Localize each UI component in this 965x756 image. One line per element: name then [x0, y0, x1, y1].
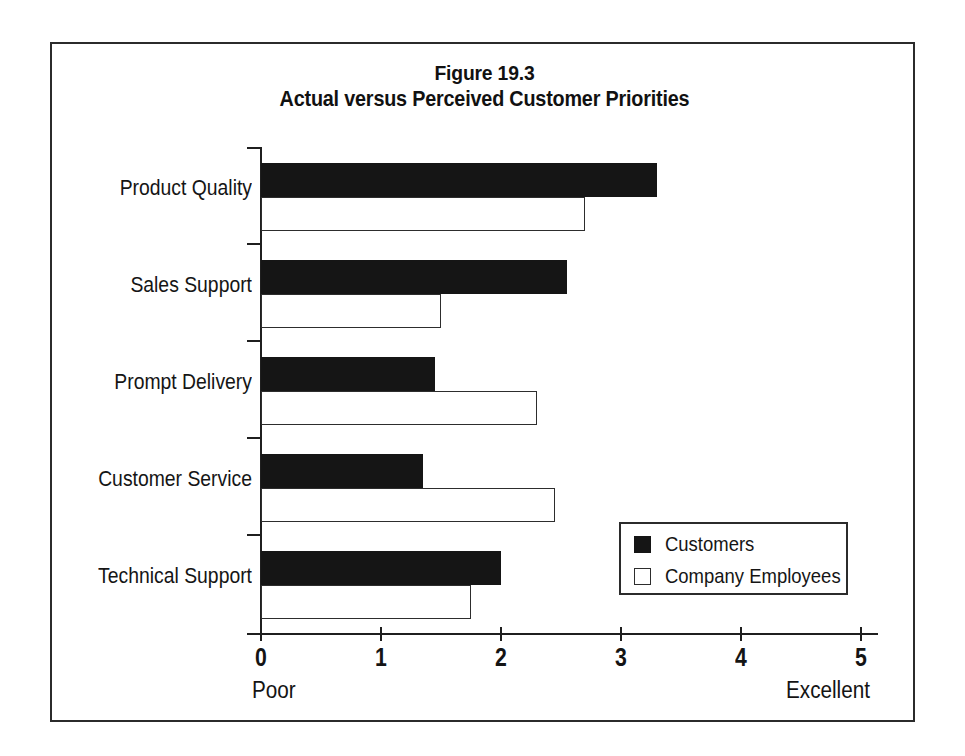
- value-axis-label-5: 5: [844, 643, 878, 671]
- bar-customers-product-quality: [261, 163, 657, 197]
- category-label-prompt-delivery: Prompt Delivery: [50, 369, 252, 395]
- legend: Customers Company Employees: [619, 522, 848, 595]
- legend-item-company-employees: Company Employees: [634, 563, 865, 589]
- figure-title-block: Figure 19.3 Actual versus Perceived Cust…: [52, 60, 917, 112]
- value-axis-label-4: 4: [724, 643, 758, 671]
- value-axis-tick-2: [500, 627, 502, 641]
- category-label-technical-support: Technical Support: [50, 563, 252, 589]
- value-axis-tick-5: [860, 627, 862, 641]
- bar-customers-technical-support: [261, 551, 501, 585]
- axis-endpoint-low: Poor: [252, 677, 296, 703]
- value-axis-label-0: 0: [244, 643, 278, 671]
- value-axis-tick-4: [740, 627, 742, 641]
- bar-employees-customer-service: [261, 488, 555, 522]
- legend-label-company-employees: Company Employees: [665, 564, 841, 588]
- bar-customers-sales-support: [261, 260, 567, 294]
- hollow-square-icon: [634, 568, 651, 585]
- bar-customers-prompt-delivery: [261, 357, 435, 391]
- value-axis-tick-1: [380, 627, 382, 641]
- figure-number: Figure 19.3: [87, 60, 883, 86]
- filled-square-icon: [634, 536, 651, 553]
- bar-employees-sales-support: [261, 294, 441, 328]
- legend-item-customers: Customers: [634, 531, 767, 557]
- bar-customers-customer-service: [261, 454, 423, 488]
- figure-root: Figure 19.3 Actual versus Perceived Cust…: [0, 0, 965, 756]
- value-axis-label-3: 3: [604, 643, 638, 671]
- category-label-sales-support: Sales Support: [50, 272, 252, 298]
- axis-endpoint-high: Excellent: [786, 677, 870, 703]
- value-axis-tick-0: [260, 627, 262, 641]
- category-label-group: Product Quality Sales Support Prompt Del…: [12, 147, 252, 635]
- figure-title: Actual versus Perceived Customer Priorit…: [87, 86, 883, 112]
- bar-employees-prompt-delivery: [261, 391, 537, 425]
- value-axis-label-2: 2: [484, 643, 518, 671]
- value-axis-label-1: 1: [364, 643, 398, 671]
- bar-employees-product-quality: [261, 197, 585, 231]
- figure-frame: Figure 19.3 Actual versus Perceived Cust…: [50, 42, 915, 722]
- bar-employees-technical-support: [261, 585, 471, 619]
- category-label-customer-service: Customer Service: [50, 466, 252, 492]
- category-label-product-quality: Product Quality: [50, 175, 252, 201]
- legend-label-customers: Customers: [665, 532, 754, 556]
- value-axis-tick-3: [620, 627, 622, 641]
- value-axis-line: [260, 633, 878, 635]
